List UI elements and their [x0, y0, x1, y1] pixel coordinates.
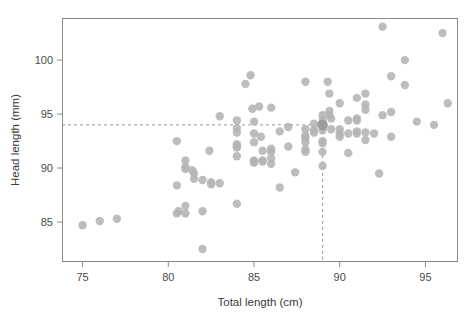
data-point [257, 133, 265, 141]
y-tick-label: 85 [41, 216, 53, 228]
y-tick-label: 100 [35, 54, 53, 66]
data-point [284, 123, 292, 131]
data-point [361, 128, 369, 136]
data-point [267, 160, 275, 168]
data-point [205, 147, 213, 155]
data-point [301, 77, 309, 85]
data-point [207, 180, 215, 188]
data-point [318, 139, 326, 147]
data-point [301, 148, 309, 156]
data-point [181, 202, 189, 210]
data-point [78, 221, 86, 229]
y-axis-title: Head length (mm) [9, 94, 21, 186]
data-point [387, 133, 395, 141]
data-point [444, 99, 452, 107]
data-point [375, 169, 383, 177]
data-point [173, 137, 181, 145]
data-point [378, 111, 386, 119]
data-point [241, 80, 249, 88]
data-point [301, 138, 309, 146]
data-point [246, 71, 254, 79]
data-point [318, 162, 326, 170]
data-point [198, 176, 206, 184]
plot-canvas: 7580859095 859095100 Total length (cm) H… [0, 0, 476, 326]
data-point [378, 22, 386, 30]
data-point [250, 158, 258, 166]
data-point [258, 157, 266, 165]
data-point [353, 94, 361, 102]
highlighted-point-layer [317, 120, 328, 131]
data-point [96, 217, 104, 225]
data-point [233, 128, 241, 136]
data-point [258, 147, 266, 155]
x-tick-label: 90 [334, 271, 346, 283]
data-point [216, 112, 224, 120]
data-point [190, 175, 198, 183]
data-point [233, 199, 241, 207]
data-point [361, 106, 369, 114]
data-point [276, 127, 284, 135]
data-point [216, 179, 224, 187]
data-point [344, 116, 352, 124]
x-axis-title: Total length (cm) [217, 296, 302, 308]
data-point [324, 77, 332, 85]
reference-guide-lines [62, 125, 323, 262]
y-tick-label: 95 [41, 108, 53, 120]
data-point [387, 108, 395, 116]
data-point [233, 116, 241, 124]
data-point [387, 72, 395, 80]
data-point [198, 245, 206, 253]
y-tick-label: 90 [41, 162, 53, 174]
x-axis-ticks: 7580859095 [76, 262, 431, 283]
data-point [267, 103, 275, 111]
data-point [284, 142, 292, 150]
data-point [276, 183, 284, 191]
data-point [430, 121, 438, 129]
data-points-layer [78, 22, 452, 253]
data-point [173, 181, 181, 189]
data-point [344, 149, 352, 157]
data-point [250, 138, 258, 146]
data-point [353, 129, 361, 137]
data-point [310, 128, 318, 136]
highlighted-point [317, 120, 328, 131]
data-point [370, 129, 378, 137]
data-point [413, 117, 421, 125]
data-point [325, 89, 333, 97]
data-point [336, 99, 344, 107]
x-tick-label: 85 [248, 271, 260, 283]
data-point [291, 168, 299, 176]
data-point [344, 129, 352, 137]
x-tick-label: 95 [419, 271, 431, 283]
data-point [361, 136, 369, 144]
data-point [198, 207, 206, 215]
scatter-plot-figure: 7580859095 859095100 Total length (cm) H… [0, 0, 476, 326]
x-tick-label: 80 [162, 271, 174, 283]
data-point [438, 29, 446, 37]
data-point [318, 148, 326, 156]
data-point [401, 81, 409, 89]
y-axis-ticks: 859095100 [35, 54, 62, 228]
data-point [336, 133, 344, 141]
data-point [255, 102, 263, 110]
data-point [353, 116, 361, 124]
data-point [327, 125, 335, 133]
data-point [250, 117, 258, 125]
data-point [181, 209, 189, 217]
x-tick-label: 75 [76, 271, 88, 283]
data-point [233, 152, 241, 160]
data-point [113, 215, 121, 223]
data-point [233, 143, 241, 151]
data-point [361, 89, 369, 97]
data-point [327, 114, 335, 122]
data-point [401, 56, 409, 64]
